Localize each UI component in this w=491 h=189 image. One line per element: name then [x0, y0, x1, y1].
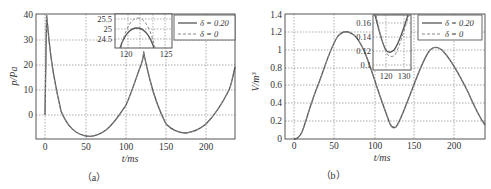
- panel-a-chart: 40 30 20 10 0 0 50 100 150 200 t/ms p/Pa…: [8, 10, 235, 184]
- panel-b-ytick: 0: [277, 134, 282, 144]
- panel-b-xtick: 150: [407, 141, 422, 151]
- panel-b-inset-xtick: 120: [380, 71, 393, 81]
- panel-a-ytick: 30: [24, 35, 34, 45]
- panel-b-ytick: 1.2: [270, 27, 282, 37]
- panel-a-inset-ytick: 25: [104, 24, 113, 34]
- panel-a-legend: δ = 0.20 δ = 0: [174, 15, 235, 40]
- panel-a-xtick: 100: [119, 142, 134, 152]
- panel-b-inset: 0.16 0.14 0.12 0.1 120 130: [356, 15, 411, 81]
- panel-a-ytick: 10: [24, 85, 34, 95]
- panel-b-chart: 1.4 1.2 1 0.8 0.6 0.4 0.2 0 0 50 100 150…: [250, 10, 485, 182]
- panel-a-ylabel: p/Pa: [8, 67, 19, 87]
- panel-a-inset-ytick: 24.5: [97, 34, 112, 44]
- panel-b-inset-xtick: 130: [398, 71, 411, 81]
- panel-b-inset-ytick: 0.1: [360, 60, 371, 70]
- panel-a-legend-solid: δ = 0.20: [200, 18, 230, 28]
- panel-a-inset-ytick: 25.5: [97, 14, 112, 24]
- panel-b-legend-dashed: δ = 0: [445, 29, 464, 39]
- panel-a-xtick: 200: [199, 142, 214, 152]
- panel-a-caption: （a）: [82, 172, 106, 183]
- panel-b-ytick: 0.6: [270, 80, 282, 90]
- panel-a-inset-xtick: 120: [120, 49, 133, 59]
- panel-b-ylabel: V/m³: [250, 71, 261, 91]
- panel-b-ytick: 1: [277, 45, 282, 55]
- panel-b-ytick: 1.4: [270, 10, 282, 20]
- panel-b-legend: δ = 0.20 δ = 0: [418, 15, 482, 40]
- panel-b-xtick: 100: [368, 141, 383, 151]
- panel-a-ytick: 20: [24, 60, 34, 70]
- panel-b-xtick: 200: [447, 141, 462, 151]
- panel-a-inset-xtick: 125: [160, 49, 173, 59]
- panel-b-ytick: 0.4: [270, 98, 282, 108]
- panel-a-inset: 25.5 25 24.5 120 125: [97, 14, 172, 59]
- panel-a-ytick: 40: [24, 10, 34, 20]
- panel-b-inset-ytick: 0.16: [356, 18, 371, 28]
- panel-b-ytick: 0.2: [270, 116, 282, 126]
- panel-b-xtick: 0: [292, 141, 297, 151]
- panel-a-xlabel: t/ms: [122, 153, 139, 164]
- panel-b-inset-ytick: 0.14: [356, 32, 372, 42]
- panel-b-xlabel: t/ms: [374, 152, 391, 163]
- figure: 40 30 20 10 0 0 50 100 150 200 t/ms p/Pa…: [0, 0, 491, 189]
- panel-a-xtick: 150: [159, 142, 174, 152]
- panel-a-legend-dashed: δ = 0: [200, 29, 219, 39]
- panel-b-legend-solid: δ = 0.20: [445, 18, 475, 28]
- panel-a-ytick: 0: [28, 110, 33, 120]
- panel-b-xtick: 50: [329, 141, 339, 151]
- panel-a-xtick: 50: [81, 142, 91, 152]
- panel-b-caption: （b）: [321, 170, 346, 181]
- panel-b-ytick: 0.8: [270, 63, 282, 73]
- panel-b-inset-ytick: 0.12: [356, 46, 371, 56]
- panel-a-xtick: 0: [43, 142, 48, 152]
